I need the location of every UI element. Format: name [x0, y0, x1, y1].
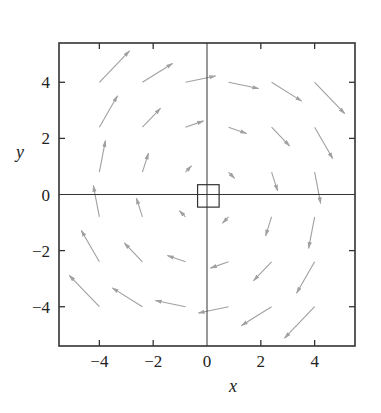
x-tick-label: 2: [257, 352, 266, 371]
vector-arrow: [229, 82, 259, 88]
vector-arrow: [297, 262, 315, 293]
vector-arrow: [272, 127, 290, 146]
vector-arrow: [229, 127, 247, 133]
vector-arrow: [142, 63, 172, 82]
vector-arrow: [99, 141, 105, 172]
vector-arrow: [81, 230, 99, 261]
y-tick-label: −2: [32, 242, 50, 261]
vector-arrow: [142, 153, 148, 172]
vector-arrow: [315, 82, 345, 113]
vector-arrow: [284, 307, 314, 338]
vector-arrow: [198, 307, 228, 313]
y-tick-label: 2: [42, 129, 51, 148]
origin-box: [198, 185, 220, 207]
tick-labels: −4−2024−4−2024: [32, 73, 319, 371]
x-tick-label: −2: [144, 352, 162, 371]
vector-arrow: [222, 217, 228, 223]
vector-arrow: [315, 172, 321, 203]
y-tick-label: −4: [32, 298, 51, 317]
vector-arrow: [272, 172, 278, 191]
vector-arrow: [185, 166, 191, 172]
y-tick-label: 0: [42, 186, 51, 205]
vector-arrow: [167, 256, 185, 262]
vector-arrow: [241, 307, 271, 326]
vector-arrow: [185, 76, 215, 82]
x-tick-label: 4: [310, 352, 319, 371]
y-axis-label: y: [14, 142, 24, 162]
vector-arrow: [253, 262, 271, 281]
vector-arrow: [142, 108, 160, 127]
vector-arrow: [185, 121, 203, 127]
vector-arrow: [93, 186, 99, 217]
x-axis-label: x: [228, 376, 237, 396]
vector-arrow: [229, 172, 235, 178]
vector-arrow: [272, 82, 302, 101]
axes: [59, 43, 355, 346]
vector-arrow: [309, 217, 315, 248]
vector-arrow: [112, 288, 142, 307]
vector-arrow: [315, 127, 333, 158]
vector-arrow: [210, 262, 228, 268]
vector-arrow: [179, 211, 185, 217]
vector-arrow: [99, 51, 129, 82]
vector-field-chart: −4−2024−4−2024 x y: [0, 0, 381, 413]
vector-arrow: [124, 243, 142, 262]
x-tick-label: −4: [90, 352, 109, 371]
vector-arrow: [69, 275, 99, 306]
y-tick-label: 4: [42, 73, 51, 92]
vector-arrow: [266, 217, 272, 236]
x-tick-label: 0: [203, 352, 212, 371]
vector-arrow: [99, 96, 117, 127]
vector-arrow: [136, 198, 142, 217]
vector-arrow: [155, 300, 185, 306]
